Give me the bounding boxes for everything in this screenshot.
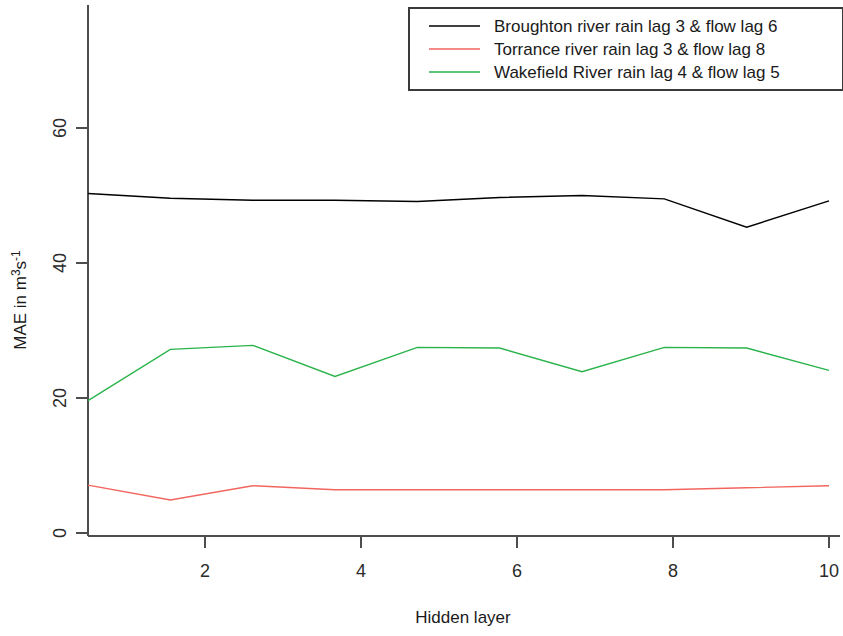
legend-label-broughton: Broughton river rain lag 3 & flow lag 6 (494, 17, 778, 36)
y-tick-label-20: 20 (50, 388, 70, 408)
y-tick-label-40: 40 (50, 253, 70, 273)
y-tick-label-60: 60 (50, 118, 70, 138)
legend-label-torrance: Torrance river rain lag 3 & flow lag 8 (494, 40, 765, 59)
series-group (88, 193, 829, 499)
x-axis-tick-labels: 2 4 6 8 10 (200, 561, 839, 581)
y-axis-title-base: MAE in m (11, 276, 30, 350)
x-tick-label-4: 4 (356, 561, 366, 581)
x-tick-label-10: 10 (819, 561, 839, 581)
line-chart: 60 40 20 0 2 4 6 8 10 Hidden layer MAE i… (0, 0, 843, 636)
series-line-wakefield (88, 345, 829, 400)
x-axis-title: Hidden layer (415, 608, 511, 627)
series-line-broughton (88, 193, 829, 227)
svg-text:MAE in m3s-1: MAE in m3s-1 (9, 250, 30, 350)
x-tick-label-8: 8 (668, 561, 678, 581)
chart-legend: Broughton river rain lag 3 & flow lag 6 … (409, 8, 843, 90)
y-axis-tick-labels: 60 40 20 0 (50, 118, 70, 538)
y-axis-title-sup2: -1 (9, 250, 23, 261)
chart-container: 60 40 20 0 2 4 6 8 10 Hidden layer MAE i… (0, 0, 843, 636)
x-axis-ticks (205, 536, 829, 548)
legend-label-wakefield: Wakefield River rain lag 4 & flow lag 5 (494, 63, 780, 82)
y-axis-title: MAE in m3s-1 (9, 250, 30, 350)
y-axis-title-mid: s (11, 261, 30, 270)
series-line-torrance (88, 485, 829, 500)
y-axis-ticks (76, 128, 88, 533)
x-tick-label-6: 6 (512, 561, 522, 581)
x-tick-label-2: 2 (200, 561, 210, 581)
y-tick-label-0: 0 (50, 528, 70, 538)
